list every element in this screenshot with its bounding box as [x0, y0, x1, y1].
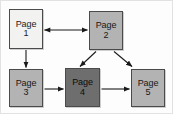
- edge-page2-page4: [80, 52, 96, 67]
- diagram-canvas: Page 1 Page 2 Page 3 Page 4 Page 5: [0, 0, 173, 114]
- node-page-5-number: 5: [146, 88, 151, 97]
- node-page-2[interactable]: Page 2: [89, 11, 123, 50]
- node-page-3-number: 3: [24, 88, 29, 97]
- node-page-4-number: 4: [80, 88, 85, 97]
- node-page-1-number: 1: [24, 29, 29, 38]
- node-page-4[interactable]: Page 4: [65, 68, 100, 107]
- node-page-1[interactable]: Page 1: [9, 9, 43, 49]
- node-page-5[interactable]: Page 5: [131, 69, 165, 107]
- edge-page2-page5: [114, 52, 132, 67]
- node-page-3[interactable]: Page 3: [9, 69, 43, 107]
- node-page-2-number: 2: [104, 31, 109, 40]
